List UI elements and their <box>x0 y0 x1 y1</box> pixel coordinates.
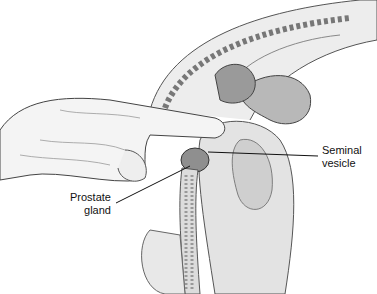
anatomical-illustration <box>0 0 377 294</box>
label-line: gland <box>70 204 111 217</box>
seminal-vesicle-label: Seminal vesicle <box>322 144 362 170</box>
label-line: vesicle <box>322 157 362 170</box>
label-line: Prostate <box>70 191 111 204</box>
prostate-gland-label: Prostate gland <box>70 191 111 217</box>
label-line: Seminal <box>322 144 362 157</box>
